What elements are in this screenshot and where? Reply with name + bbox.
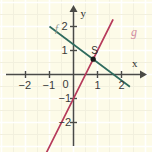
y-tick-label-2: 2 <box>62 21 68 32</box>
coordinate-plane <box>0 0 152 152</box>
point-label-s: S <box>91 46 98 56</box>
y-tick-label-1: 1 <box>62 45 68 56</box>
y-axis-name: y <box>81 8 87 19</box>
origin-label: 0 <box>63 79 69 90</box>
function-label-g: g <box>131 26 137 38</box>
y-tick-label-neg1: −1 <box>59 93 72 104</box>
y-tick-label-neg2: −2 <box>59 117 72 128</box>
x-tick-label-1: 1 <box>95 80 101 91</box>
function-label-f: f <box>55 23 58 34</box>
x-tick-label-neg2: −2 <box>19 80 32 91</box>
x-axis-name: x <box>132 58 138 69</box>
graph-figure: −2 −1 1 2 2 1 −1 −2 0 x y f g S <box>0 0 152 152</box>
intersection-points <box>91 57 96 62</box>
grid-lines <box>0 0 152 152</box>
x-tick-label-2: 2 <box>119 80 125 91</box>
x-tick-label-neg1: −1 <box>43 80 56 91</box>
